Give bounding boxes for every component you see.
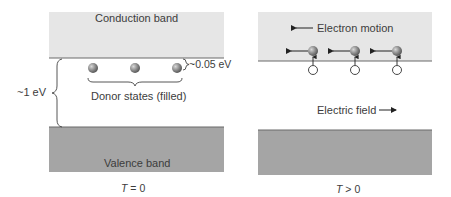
donor-brace-icon [88,78,182,86]
donor-states-label: Donor states (filled) [91,90,186,102]
temperature-label-right: T > 0 [336,183,360,195]
electron-motion-label: Electron motion [317,22,393,34]
electron-icon [392,46,402,56]
temperature-condition: = 0 [127,182,145,194]
hole-icon [351,66,360,75]
hole-icon [393,66,402,75]
right-conduction-band [258,12,432,61]
electron-icon [350,46,360,56]
gap-brace-icon [52,59,62,127]
donor-states [88,63,182,73]
conduction-band-label: Conduction band [95,12,178,24]
donor-electron-icon [130,63,140,73]
temperature-condition: > 0 [342,183,360,195]
electric-field-label: Electric field [317,104,376,116]
donor-gap-label: ~0.05 eV [189,58,231,70]
valence-band-label: Valence band [104,157,170,169]
temperature-label-left: T = 0 [121,182,145,194]
electron-icon [308,46,318,56]
gap-label: ~1 eV [17,86,46,98]
hole-icon [309,66,318,75]
donor-electron-icon [88,63,98,73]
donor-electron-icon [172,63,182,73]
right-valence-band [258,130,432,175]
